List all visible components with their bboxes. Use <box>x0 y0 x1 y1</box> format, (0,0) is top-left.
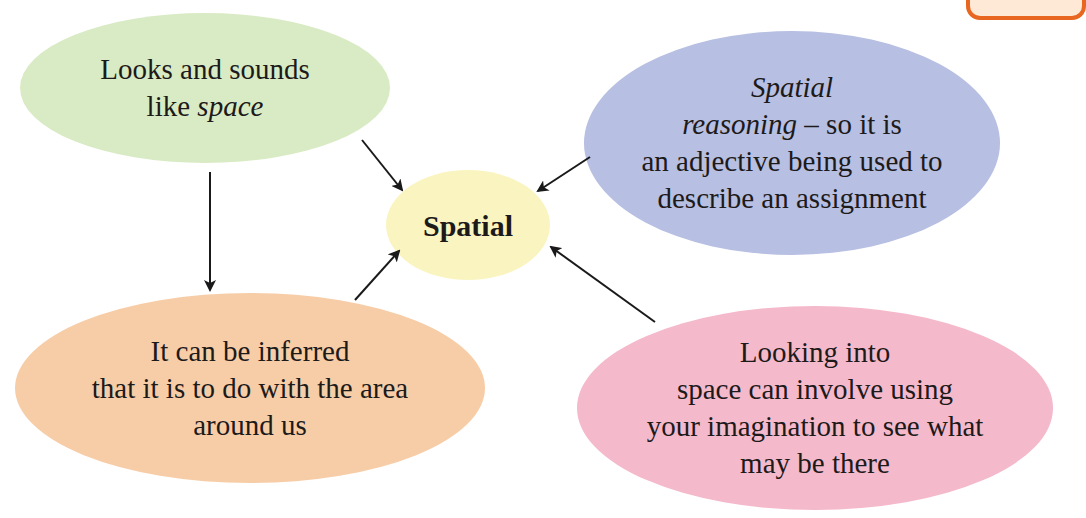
node-text-line: around us <box>92 407 409 444</box>
node-looking-into-space: Looking into space can involve using you… <box>577 306 1053 510</box>
arrow-looking-to-spatial <box>551 247 655 322</box>
node-text-line: It can be inferred <box>92 333 409 370</box>
node-text-line: like <box>147 90 198 122</box>
node-text-italic: reasoning <box>682 108 797 140</box>
node-looks-sounds: Looks and sounds like space <box>20 13 390 163</box>
node-text-line: space can involve using <box>647 371 984 408</box>
arrow-inferred-to-spatial <box>355 251 399 300</box>
node-text-line: Looks and sounds <box>100 51 309 88</box>
node-text-line: an adjective being used to <box>641 143 942 180</box>
node-text-line: – so it is <box>797 108 902 140</box>
node-center-spatial: Spatial <box>386 170 550 280</box>
node-text-italic: Spatial <box>751 71 833 103</box>
node-text-line: your imagination to see what <box>647 408 984 445</box>
node-text-line: that it is to do with the area <box>92 370 409 407</box>
node-inferred-area: It can be inferred that it is to do with… <box>15 293 485 483</box>
node-spatial-reasoning: Spatial reasoning – so it is an adjectiv… <box>584 31 1000 255</box>
arrow-reasoning-to-spatial <box>538 157 590 191</box>
node-text-line: may be there <box>647 445 984 482</box>
center-label: Spatial <box>423 207 513 244</box>
node-text-line: describe an assignment <box>641 180 942 217</box>
node-text-italic: space <box>197 90 263 122</box>
node-text-line: Looking into <box>647 334 984 371</box>
arrow-looks-to-spatial <box>362 140 402 190</box>
